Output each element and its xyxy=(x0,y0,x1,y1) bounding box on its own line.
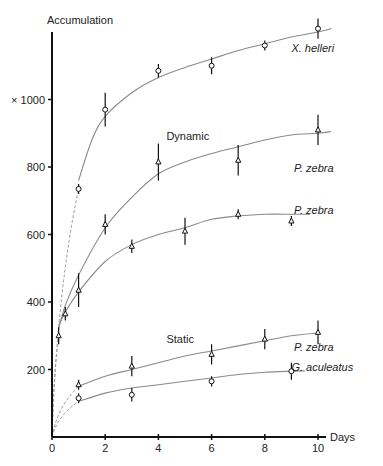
series-label: P. zebra xyxy=(294,204,334,216)
data-points xyxy=(56,19,321,404)
circle-marker-icon xyxy=(103,107,108,112)
x-tick-label: 2 xyxy=(102,442,108,454)
triangle-marker-icon xyxy=(76,382,81,387)
triangle-marker-icon xyxy=(315,329,320,334)
y-tick-label: 600 xyxy=(27,229,45,241)
circle-marker-icon xyxy=(262,43,267,48)
x-tick-label: 4 xyxy=(155,442,161,454)
x-tick-label: 8 xyxy=(262,442,268,454)
fit-curve xyxy=(79,333,318,386)
circle-marker-icon xyxy=(316,26,321,31)
triangle-marker-icon xyxy=(129,363,134,368)
y-tick-label: 400 xyxy=(27,296,45,308)
x-tick-label: 6 xyxy=(209,442,215,454)
triangle-marker-icon xyxy=(236,211,241,216)
series-label: P. zebra xyxy=(294,162,334,174)
triangle-marker-icon xyxy=(103,221,108,226)
dashed-line xyxy=(52,386,79,437)
axis-ticks: 0246810200400600800× 1000 xyxy=(11,94,324,455)
annotation-static: Static xyxy=(166,333,194,345)
y-axis-label: Accumulation xyxy=(47,14,113,26)
triangle-marker-icon xyxy=(156,159,161,164)
x-tick-label: 0 xyxy=(49,442,55,454)
dashed-line xyxy=(52,402,79,437)
triangle-marker-icon xyxy=(56,333,61,338)
triangle-marker-icon xyxy=(236,157,241,162)
series-label: G. aculeatus xyxy=(291,361,353,373)
triangle-marker-icon xyxy=(289,218,294,223)
circle-marker-icon xyxy=(76,396,81,401)
triangle-marker-icon xyxy=(315,127,320,132)
circle-marker-icon xyxy=(76,186,81,191)
circle-marker-icon xyxy=(209,379,214,384)
series-label: P. zebra xyxy=(294,341,334,353)
circle-marker-icon xyxy=(129,392,134,397)
circle-marker-icon xyxy=(156,68,161,73)
y-tick-label: 800 xyxy=(27,161,45,173)
series-label: X. helleri xyxy=(290,42,334,54)
fit-curve xyxy=(79,371,305,402)
y-tick-label: × 1000 xyxy=(11,94,45,106)
accumulation-chart: 0246810200400600800× 1000 X. helleriP. z… xyxy=(0,0,383,466)
triangle-marker-icon xyxy=(76,287,81,292)
x-axis-label: Days xyxy=(330,431,356,443)
circle-marker-icon xyxy=(209,63,214,68)
y-tick-label: 200 xyxy=(27,364,45,376)
triangle-marker-icon xyxy=(182,228,187,233)
axes xyxy=(52,32,326,437)
annotation-dynamic: Dynamic xyxy=(166,130,209,142)
triangle-marker-icon xyxy=(209,351,214,356)
fitted-curves xyxy=(59,29,332,402)
x-tick-label: 10 xyxy=(312,442,324,454)
triangle-marker-icon xyxy=(262,336,267,341)
fit-curve xyxy=(59,132,332,329)
series-labels: X. helleriP. zebraP. zebraP. zebraG. acu… xyxy=(290,42,353,373)
